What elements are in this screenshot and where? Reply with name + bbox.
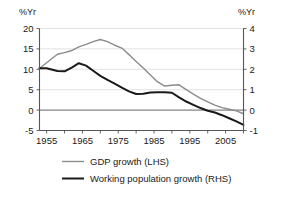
right-axis-tick-label: 4 bbox=[250, 23, 255, 34]
left-axis-tick-label: 0 bbox=[28, 105, 33, 116]
x-axis-tick-label: 2005 bbox=[215, 135, 236, 146]
series-line-working-population-growth bbox=[40, 63, 244, 125]
right-axis-tick-label: 2 bbox=[250, 64, 255, 75]
legend-label-gdp-growth: GDP growth (LHS) bbox=[90, 156, 169, 167]
x-axis-tick-label: 1965 bbox=[72, 135, 93, 146]
series-line-gdp-growth bbox=[40, 40, 244, 114]
left-axis-tick-label: 10 bbox=[23, 64, 34, 75]
right-axis-tick-label: 1 bbox=[250, 84, 255, 95]
right-axis-tick-label: -1 bbox=[250, 125, 258, 136]
right-axis-tick-label: 3 bbox=[250, 43, 255, 54]
x-axis-tick-label: 1955 bbox=[36, 135, 57, 146]
plot-area: 20151050-543210-119551965197519851995200… bbox=[0, 0, 282, 200]
left-axis-tick-label: 5 bbox=[28, 84, 33, 95]
x-axis-tick-label: 1995 bbox=[179, 135, 200, 146]
chart-figure: %Yr %Yr 20151050-543210-1195519651975198… bbox=[0, 0, 282, 200]
left-axis-tick-label: -5 bbox=[25, 125, 33, 136]
tick-labels-layer: 20151050-543210-119551965197519851995200… bbox=[23, 23, 258, 146]
axes-layer bbox=[37, 29, 247, 134]
data-series-layer bbox=[40, 40, 244, 125]
chart-legend: GDP growth (LHS)Working population growt… bbox=[62, 156, 231, 184]
x-axis-tick-label: 1985 bbox=[143, 135, 164, 146]
left-axis-tick-label: 15 bbox=[23, 43, 34, 54]
right-axis-tick-label: 0 bbox=[250, 105, 255, 116]
legend-label-working-population-growth: Working population growth (RHS) bbox=[90, 173, 231, 184]
x-axis-tick-label: 1975 bbox=[108, 135, 129, 146]
left-axis-tick-label: 20 bbox=[23, 23, 34, 34]
